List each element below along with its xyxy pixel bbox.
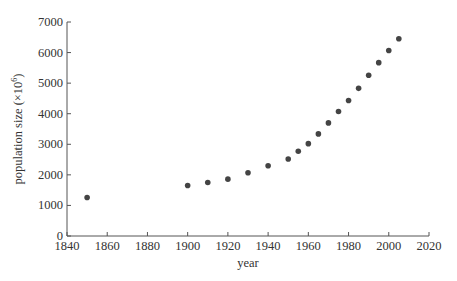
y-tick-label: 4000: [38, 107, 63, 121]
data-point: [306, 141, 312, 147]
data-point: [285, 156, 291, 162]
data-point: [326, 120, 332, 126]
data-point: [366, 72, 372, 78]
x-tick-label: 1920: [215, 239, 240, 253]
data-point: [225, 176, 231, 182]
x-tick-label: 1900: [175, 239, 200, 253]
y-axis-label-close: ): [11, 73, 25, 77]
y-axis-label: population size (×106): [10, 73, 25, 184]
data-point: [346, 98, 352, 104]
y-axis-label-base: population size (×10: [11, 82, 25, 185]
x-tick-label: 2000: [376, 239, 401, 253]
scatter-chart: 1840186018801900192019401960198020002020…: [0, 0, 457, 281]
x-axis-label: year: [237, 256, 259, 270]
data-point: [185, 183, 191, 189]
data-point: [386, 48, 392, 54]
data-point: [376, 60, 382, 66]
x-tick-label: 1880: [135, 239, 160, 253]
axes: [67, 22, 429, 236]
data-point: [295, 149, 301, 155]
y-tick-label: 2000: [38, 168, 63, 182]
data-points: [84, 36, 401, 200]
data-point: [265, 163, 271, 169]
x-axis-ticks: 1840186018801900192019401960198020002020: [55, 232, 442, 253]
x-tick-label: 2020: [417, 239, 442, 253]
x-tick-label: 1980: [336, 239, 361, 253]
data-point: [84, 195, 90, 201]
y-tick-label: 6000: [38, 46, 63, 60]
y-tick-label: 5000: [38, 76, 63, 90]
data-point: [205, 180, 211, 186]
x-tick-label: 1960: [296, 239, 321, 253]
data-point: [316, 131, 322, 137]
y-tick-label: 0: [57, 229, 63, 243]
x-tick-label: 1860: [95, 239, 120, 253]
data-point: [245, 170, 251, 176]
y-tick-label: 3000: [38, 137, 63, 151]
data-point: [336, 109, 342, 115]
y-tick-label: 7000: [38, 15, 63, 29]
y-tick-label: 1000: [38, 198, 63, 212]
data-point: [356, 86, 362, 92]
x-tick-label: 1940: [256, 239, 281, 253]
y-axis-ticks: 01000200030004000500060007000: [38, 15, 71, 243]
data-point: [396, 36, 402, 42]
